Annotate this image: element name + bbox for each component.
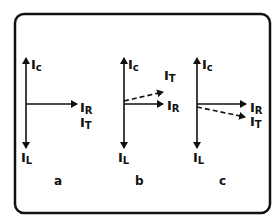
panel-c: Ic IL IR IT c	[193, 57, 263, 188]
it-label: IT	[250, 114, 262, 130]
ir-label: IR	[80, 100, 93, 116]
panel-caption: c	[219, 174, 226, 188]
il-label: IL	[193, 150, 205, 166]
ic-label: Ic	[202, 57, 213, 73]
ic-label: Ic	[31, 57, 42, 73]
panel-a: Ic IL IR IT a	[21, 57, 93, 188]
ir-label: IR	[167, 98, 180, 114]
phasor-diagram-figure: Ic IL IR IT a Ic IL IR IT b Ic IL IR IT …	[0, 0, 277, 222]
it-label: IT	[80, 115, 92, 131]
it-arrow-dashed	[124, 92, 163, 101]
panel-b: Ic IL IR IT b	[118, 57, 180, 188]
panel-caption: b	[135, 174, 144, 188]
panel-caption: a	[54, 174, 62, 188]
il-label: IL	[21, 150, 33, 166]
it-label: IT	[164, 68, 176, 84]
it-arrow-dashed	[197, 107, 245, 117]
ic-label: Ic	[128, 57, 139, 73]
il-label: IL	[118, 150, 130, 166]
